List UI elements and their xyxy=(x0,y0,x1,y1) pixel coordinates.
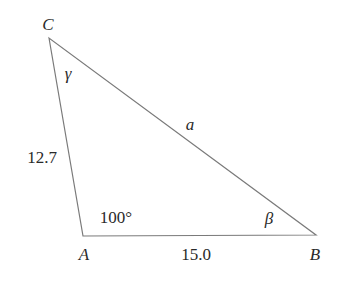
vertex-label-b: B xyxy=(310,246,320,263)
vertex-label-a: A xyxy=(79,246,89,263)
triangle-diagram: C A B 12.7 15.0 a 100° β γ xyxy=(0,0,348,284)
angle-label-a: 100° xyxy=(100,209,132,226)
side-label-ab: 15.0 xyxy=(181,246,211,263)
triangle-outline xyxy=(49,38,316,236)
side-label-ca: 12.7 xyxy=(27,149,57,166)
triangle-shape xyxy=(0,0,348,284)
angle-label-b: β xyxy=(265,210,273,227)
angle-label-c: γ xyxy=(65,65,72,82)
vertex-label-c: C xyxy=(42,16,53,33)
side-label-cb: a xyxy=(186,116,195,133)
